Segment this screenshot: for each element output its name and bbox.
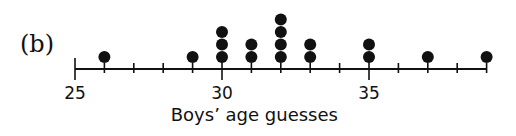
data-dot xyxy=(187,51,199,63)
x-axis-title: Boys’ age guesses xyxy=(171,104,338,125)
data-dot xyxy=(245,51,257,63)
data-dot xyxy=(481,51,493,63)
data-dot xyxy=(275,51,287,63)
dot-plot: 253035Boys’ age guesses xyxy=(0,0,516,136)
data-dot xyxy=(422,51,434,63)
data-dot xyxy=(245,39,257,51)
tick-label: 35 xyxy=(358,83,380,103)
tick-label: 30 xyxy=(211,83,233,103)
data-dot xyxy=(216,26,228,38)
data-dot xyxy=(275,26,287,38)
data-dot xyxy=(275,39,287,51)
tick-label: 25 xyxy=(64,83,86,103)
data-dot xyxy=(304,51,316,63)
data-dot xyxy=(216,51,228,63)
data-dot xyxy=(304,39,316,51)
data-dot xyxy=(216,39,228,51)
data-dot xyxy=(98,51,110,63)
data-dot xyxy=(363,51,375,63)
data-dot xyxy=(363,39,375,51)
data-dot xyxy=(275,14,287,26)
